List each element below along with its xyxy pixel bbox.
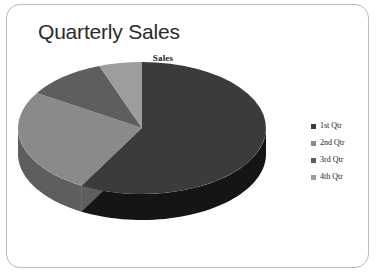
legend-item[interactable]: 1st Qtr [311, 118, 373, 134]
legend-item[interactable]: 3rd Qtr [311, 152, 373, 168]
pie-svg [18, 62, 308, 242]
legend-item-label: 4th Qtr [320, 173, 343, 181]
legend-item-label: 1st Qtr [320, 122, 342, 130]
pie-chart[interactable]: Sales 1st Qtr 2nd Qtr 3rd Qtr 4th [18, 50, 358, 250]
legend-swatch-icon [311, 158, 316, 163]
legend-item[interactable]: 2nd Qtr [311, 135, 373, 151]
legend-swatch-icon [311, 124, 316, 129]
pie-graphic[interactable] [18, 62, 308, 242]
page-title: Quarterly Sales [38, 20, 180, 44]
legend-swatch-icon [311, 175, 316, 180]
slide-canvas: Quarterly Sales Sales 1st Qtr 2nd Qtr 3r… [0, 0, 376, 273]
legend-swatch-icon [311, 141, 316, 146]
chart-legend[interactable]: 1st Qtr 2nd Qtr 3rd Qtr 4th Qtr [311, 118, 373, 186]
legend-item-label: 3rd Qtr [320, 156, 343, 164]
pie-top-slices [18, 62, 266, 194]
legend-item[interactable]: 4th Qtr [311, 169, 373, 185]
legend-item-label: 2nd Qtr [320, 139, 345, 147]
